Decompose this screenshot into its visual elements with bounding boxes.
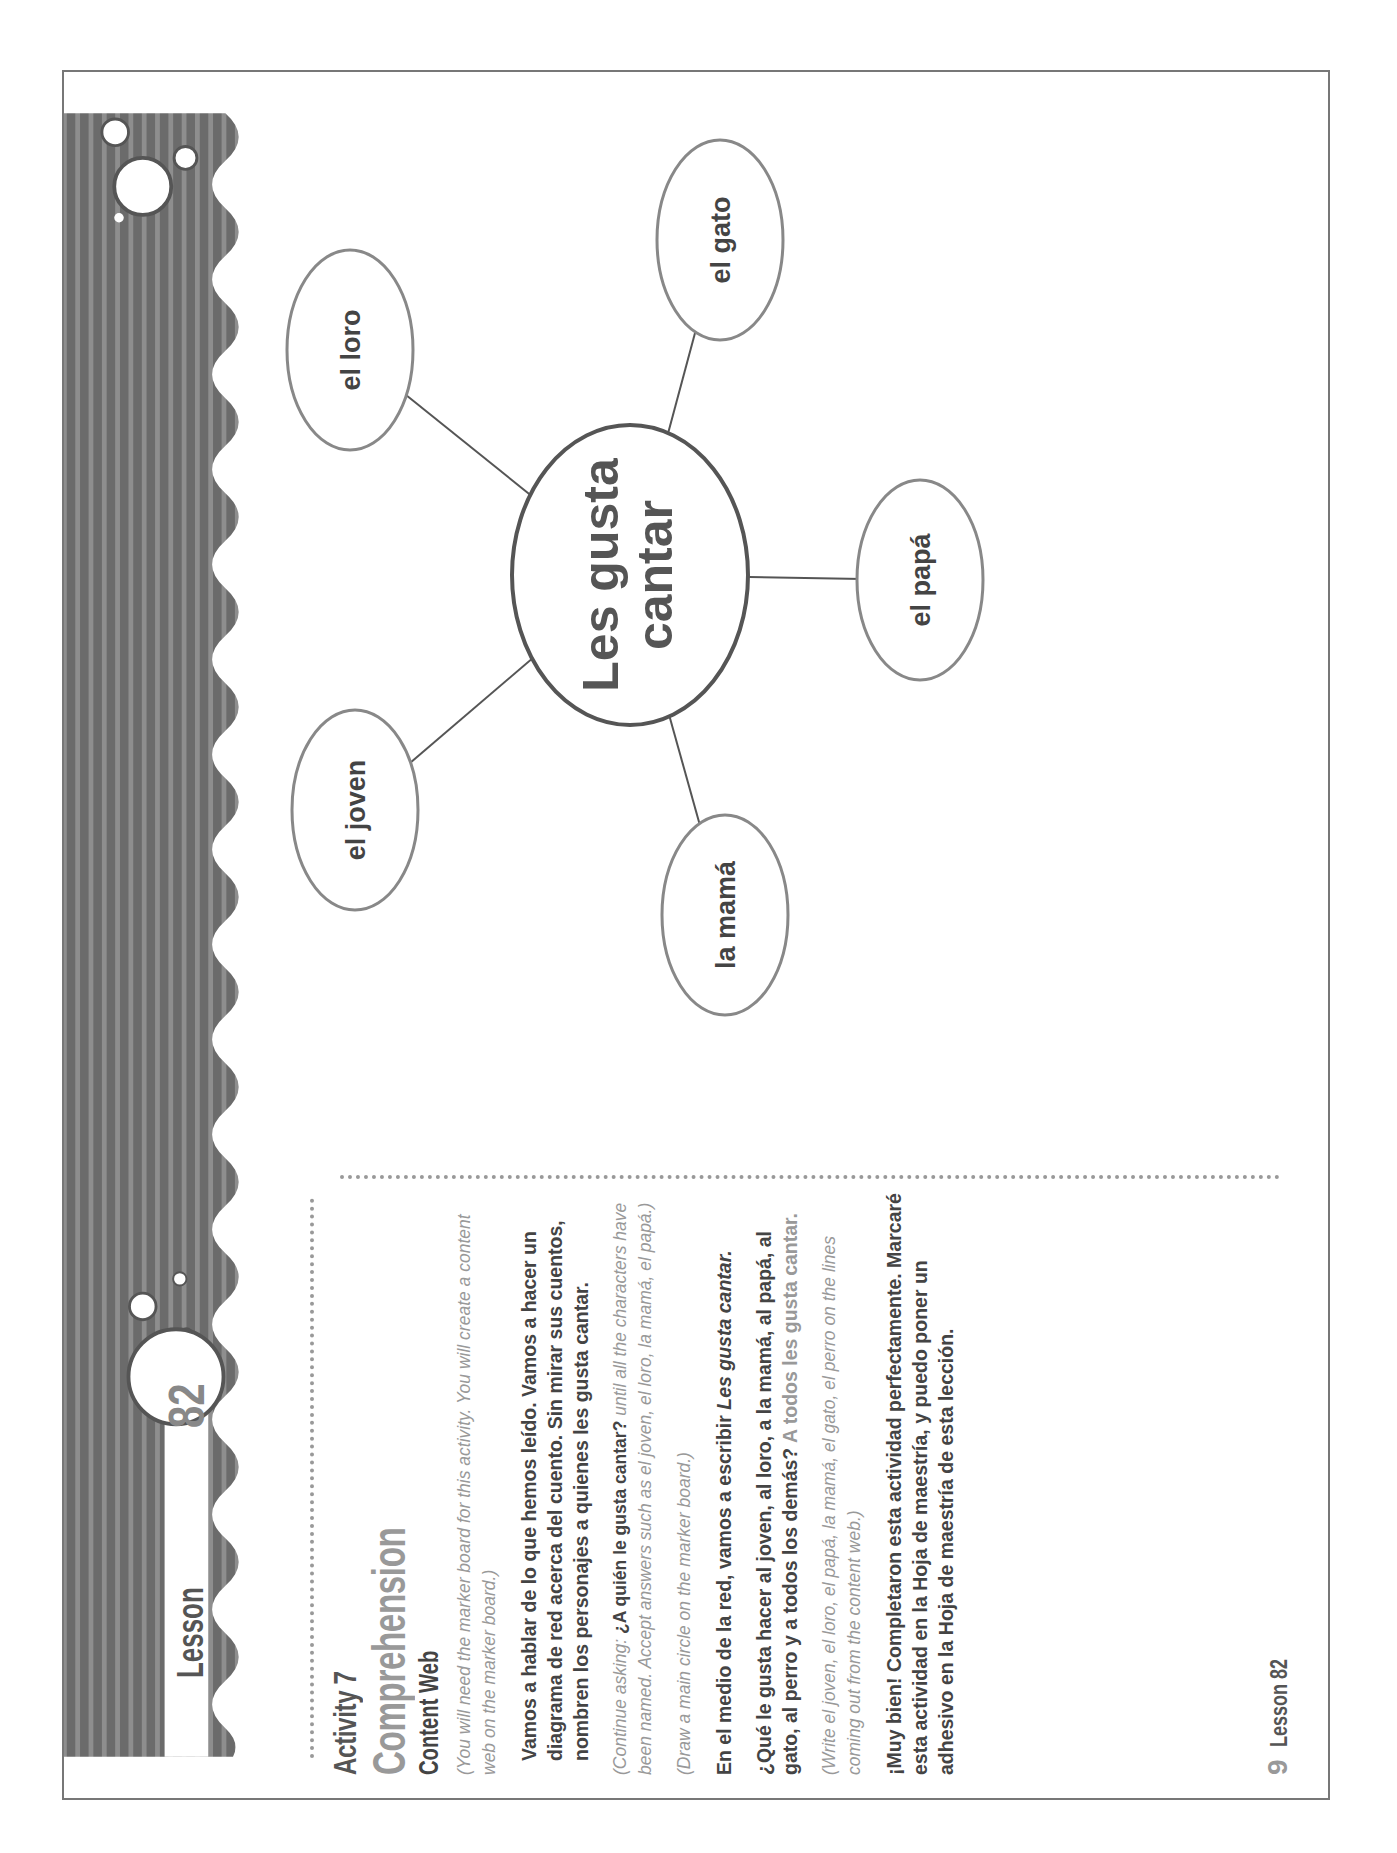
svg-text:Les gusta: Les gusta xyxy=(573,457,629,692)
node-el-papa: el papá xyxy=(857,480,983,680)
svg-text:el loro: el loro xyxy=(336,309,366,390)
center-node: Les gusta cantar xyxy=(512,425,748,725)
svg-text:el joven: el joven xyxy=(341,760,371,861)
workbook-page: Lesson 82 Activity 7 Comprehension Conte… xyxy=(0,0,1397,1853)
node-el-joven: el joven xyxy=(292,710,418,910)
svg-text:la mamá: la mamá xyxy=(711,860,741,969)
node-el-loro: el loro xyxy=(287,250,413,450)
node-la-mama: la mamá xyxy=(662,815,788,1015)
node-el-gato: el gato xyxy=(657,140,783,340)
svg-text:el papá: el papá xyxy=(906,533,936,627)
svg-text:cantar: cantar xyxy=(627,500,683,650)
content-web-diagram: Les gusta cantar el loro el gato el papá… xyxy=(0,0,1397,1853)
svg-text:el gato: el gato xyxy=(706,196,736,283)
